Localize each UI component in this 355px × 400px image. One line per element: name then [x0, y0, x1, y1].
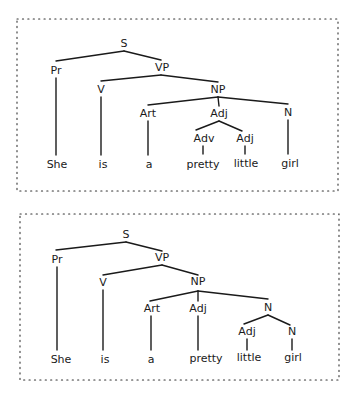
node-label-adj1: Adj: [210, 107, 227, 120]
node-label-adj1: Adj: [189, 302, 206, 315]
node-label-art: Art: [144, 302, 161, 315]
node-label-vp: VP: [155, 251, 170, 264]
tree-branch: [103, 265, 162, 275]
word-leaf: She: [51, 353, 72, 366]
tree-branch: [101, 75, 161, 81]
word-leaf: a: [148, 353, 155, 366]
node-label-adv: Adv: [194, 132, 215, 145]
word-leaf: girl: [284, 351, 302, 364]
node-label-n2: N: [288, 325, 296, 338]
node-label-pr: Pr: [52, 253, 63, 266]
node-label-np: NP: [211, 83, 226, 96]
parse-tree-1: SPrVPVNPArtAdjNAdvAdjSheisaprettylittleg…: [17, 19, 338, 191]
tree-branch: [244, 315, 268, 324]
node-label-adj2: Adj: [238, 325, 255, 338]
node-label-v: V: [97, 83, 105, 96]
tree-branch: [268, 315, 290, 325]
tree-branch: [56, 242, 126, 250]
syntax-tree-figure: SPrVPVNPArtAdjNAdvAdjSheisaprettylittleg…: [0, 0, 355, 400]
tree-branch: [148, 97, 218, 105]
tree-branch: [161, 75, 218, 82]
word-leaf: pretty: [186, 158, 220, 171]
word-leaf: a: [146, 158, 153, 171]
tree-branch: [126, 242, 162, 251]
node-label-np: NP: [191, 275, 206, 288]
parse-tree-2: SPrVPVNPArtAdjNAdjNSheisaprettylittlegir…: [20, 214, 339, 380]
tree-branch: [196, 121, 219, 130]
tree-branch: [124, 51, 161, 60]
tree-branch: [198, 291, 268, 299]
node-label-v: V: [99, 276, 107, 289]
tree-branch: [218, 97, 219, 106]
tree-branch: [218, 97, 288, 104]
tree-branch: [56, 51, 124, 61]
word-leaf: little: [234, 157, 259, 170]
tree-branch: [219, 121, 242, 131]
node-label-vp: VP: [155, 61, 170, 74]
word-leaf: is: [101, 353, 110, 366]
node-label-art: Art: [140, 107, 157, 120]
word-leaf: little: [237, 351, 262, 364]
node-label-s: S: [121, 37, 128, 50]
word-leaf: is: [99, 158, 108, 171]
node-label-s: S: [123, 228, 130, 241]
word-leaf: girl: [281, 157, 299, 170]
word-leaf: pretty: [189, 352, 223, 365]
node-label-pr: Pr: [51, 64, 62, 77]
node-label-n1: N: [264, 301, 272, 314]
word-leaf: She: [47, 158, 68, 171]
node-label-adj2: Adj: [236, 132, 253, 145]
tree-diagram-canvas: SPrVPVNPArtAdjNAdvAdjSheisaprettylittleg…: [0, 0, 355, 400]
tree-branch: [150, 291, 198, 301]
node-label-n: N: [284, 106, 292, 119]
tree-branch: [162, 265, 198, 275]
